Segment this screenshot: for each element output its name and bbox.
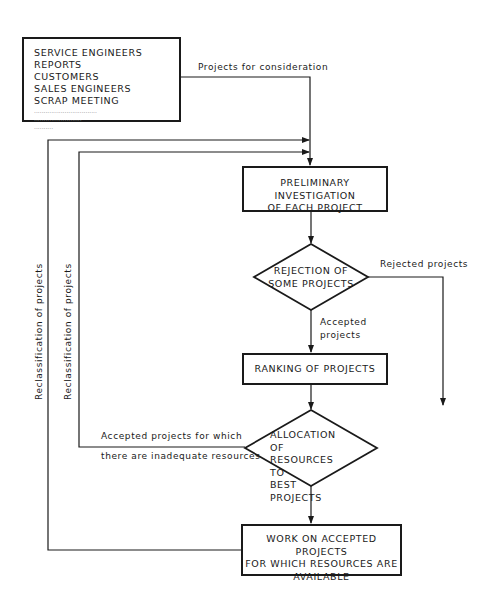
placeholder-line: ......................... xyxy=(34,115,179,123)
placeholder-line: .......... xyxy=(34,123,179,131)
label-inadequate-resources-2: there are inadequate resources xyxy=(101,451,261,461)
label-rejected-projects: Rejected projects xyxy=(380,259,468,269)
edge-rejected-projects xyxy=(368,277,443,405)
rejection-line1: REJECTION OF xyxy=(262,265,360,278)
rejection-text: REJECTION OF SOME PROJECTS xyxy=(262,265,360,290)
accepted-line2: projects xyxy=(320,329,367,342)
label-accepted-projects: Accepted projects xyxy=(320,316,367,342)
allocation-line3: BEST PROJECTS xyxy=(270,479,350,504)
rejection-line2: SOME PROJECTS xyxy=(262,278,360,291)
work-line1: WORK ON ACCEPTED PROJECTS xyxy=(243,533,400,558)
investigation-line2: OF EACH PROJECT xyxy=(244,202,386,215)
placeholder-line: ................................. xyxy=(34,107,179,115)
allocation-line1: ALLOCATION OF xyxy=(270,429,350,454)
ranking-line1: RANKING OF PROJECTS xyxy=(244,363,386,376)
label-projects-for-consideration: Projects for consideration xyxy=(198,62,328,72)
source-scrap-meeting: SCRAP MEETING xyxy=(34,95,179,107)
source-service-engineers: SERVICE ENGINEERS REPORTS xyxy=(34,47,179,71)
label-reclassification-outer: Reclassification of projects xyxy=(34,263,44,400)
allocation-line2: RESOURCES TO xyxy=(270,454,350,479)
label-inadequate-resources-1: Accepted projects for which xyxy=(101,431,242,441)
work-box: WORK ON ACCEPTED PROJECTS FOR WHICH RESO… xyxy=(241,524,402,576)
ranking-box: RANKING OF PROJECTS xyxy=(242,353,388,385)
investigation-line1: PRELIMINARY INVESTIGATION xyxy=(244,177,386,202)
work-line3: AVAILABLE xyxy=(243,571,400,584)
investigation-box: PRELIMINARY INVESTIGATION OF EACH PROJEC… xyxy=(242,166,388,212)
source-sales-engineers: SALES ENGINEERS xyxy=(34,83,179,95)
accepted-line1: Accepted xyxy=(320,316,367,329)
source-box: SERVICE ENGINEERS REPORTS CUSTOMERS SALE… xyxy=(22,37,181,122)
allocation-text: ALLOCATION OF RESOURCES TO BEST PROJECTS xyxy=(270,429,350,504)
label-reclassification-inner: Reclassification of projects xyxy=(63,263,73,400)
source-customers: CUSTOMERS xyxy=(34,71,179,83)
work-line2: FOR WHICH RESOURCES ARE xyxy=(243,558,400,571)
